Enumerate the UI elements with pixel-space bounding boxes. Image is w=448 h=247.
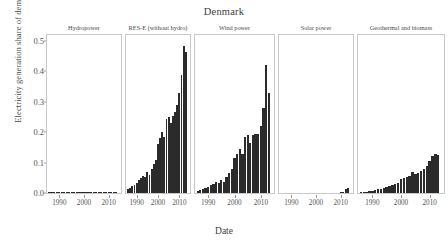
x-axis-tick-label: 1990 bbox=[52, 199, 66, 207]
x-axis-ticks: 199020002010 bbox=[357, 195, 445, 215]
x-axis-tick-label: 2000 bbox=[394, 199, 408, 207]
facet-panel-title: Geothermal and biomass bbox=[357, 21, 445, 34]
y-axis-tick-label: 0.1 bbox=[18, 158, 44, 167]
x-axis-tick-label: 2010 bbox=[422, 199, 436, 207]
x-axis-tick-mark bbox=[84, 195, 85, 198]
y-axis-tick-label: 0.3 bbox=[18, 98, 44, 107]
facet-panel-title: Solar power bbox=[278, 21, 354, 34]
facet-panel: Geothermal and biomass199020002010 bbox=[357, 34, 445, 194]
x-axis-tick-mark bbox=[401, 195, 402, 198]
bar bbox=[347, 188, 349, 193]
chart-container: Denmark Electricity generation share of … bbox=[0, 0, 448, 247]
y-axis: 0.00.10.20.30.40.5 bbox=[14, 0, 44, 247]
bar bbox=[115, 192, 117, 193]
x-axis-tick-label: 2010 bbox=[101, 199, 115, 207]
x-axis-tick-mark bbox=[372, 195, 373, 198]
x-axis-tick-label: 2000 bbox=[77, 199, 91, 207]
x-axis-tick-mark bbox=[235, 195, 236, 198]
x-axis-tick-mark bbox=[208, 195, 209, 198]
facet-panel-title: RES-E (without hydro) bbox=[125, 21, 191, 34]
bar bbox=[437, 155, 439, 193]
x-axis-tick-mark bbox=[430, 195, 431, 198]
bar-series bbox=[195, 35, 274, 193]
bar-series bbox=[358, 35, 444, 193]
bar-series bbox=[126, 35, 190, 193]
facet-panel: Hydropower199020002010 bbox=[46, 34, 122, 194]
x-axis-tick-label: 2000 bbox=[151, 199, 165, 207]
plot-area bbox=[47, 35, 121, 193]
y-axis-tick-label: 0.4 bbox=[18, 67, 44, 76]
x-axis-tick-label: 1990 bbox=[365, 199, 379, 207]
x-axis-tick-label: 2010 bbox=[172, 199, 186, 207]
plot-area bbox=[126, 35, 190, 193]
x-axis-tick-label: 1990 bbox=[129, 199, 143, 207]
x-axis-tick-label: 2010 bbox=[333, 199, 347, 207]
x-axis-ticks: 199020002010 bbox=[278, 195, 354, 215]
bar bbox=[268, 93, 270, 193]
facet-panel-title: Wind power bbox=[194, 21, 275, 34]
x-axis-ticks: 199020002010 bbox=[46, 195, 122, 215]
plot-area bbox=[195, 35, 274, 193]
x-axis-tick-mark bbox=[59, 195, 60, 198]
plot-area bbox=[279, 35, 353, 193]
x-axis-tick-mark bbox=[109, 195, 110, 198]
x-axis-tick-mark bbox=[316, 195, 317, 198]
x-axis-ticks: 199020002010 bbox=[125, 195, 191, 215]
chart-title: Denmark bbox=[0, 6, 448, 17]
y-axis-tick-label: 0.5 bbox=[18, 37, 44, 46]
x-axis-ticks: 199020002010 bbox=[194, 195, 275, 215]
x-axis-tick-label: 1990 bbox=[201, 199, 215, 207]
facet-panel-title: Hydropower bbox=[46, 21, 122, 34]
x-axis-tick-mark bbox=[341, 195, 342, 198]
bar-series bbox=[47, 35, 121, 193]
bar bbox=[185, 52, 187, 193]
y-axis-tick-label: 0.2 bbox=[18, 128, 44, 137]
bar-series bbox=[279, 35, 353, 193]
plot-area bbox=[358, 35, 444, 193]
x-axis-tick-label: 2000 bbox=[227, 199, 241, 207]
x-axis-label: Date bbox=[0, 226, 448, 236]
x-axis-tick-label: 1990 bbox=[284, 199, 298, 207]
x-axis-tick-mark bbox=[261, 195, 262, 198]
x-axis-tick-mark bbox=[158, 195, 159, 198]
x-axis-tick-label: 2000 bbox=[309, 199, 323, 207]
x-axis-tick-label: 2010 bbox=[254, 199, 268, 207]
facet-panel: RES-E (without hydro)199020002010 bbox=[125, 34, 191, 194]
x-axis-tick-mark bbox=[291, 195, 292, 198]
x-axis-tick-mark bbox=[179, 195, 180, 198]
x-axis-tick-mark bbox=[137, 195, 138, 198]
y-axis-tick-label: 0.0 bbox=[18, 189, 44, 198]
facet-panel: Solar power199020002010 bbox=[278, 34, 354, 194]
facet-panel: Wind power199020002010 bbox=[194, 34, 275, 194]
